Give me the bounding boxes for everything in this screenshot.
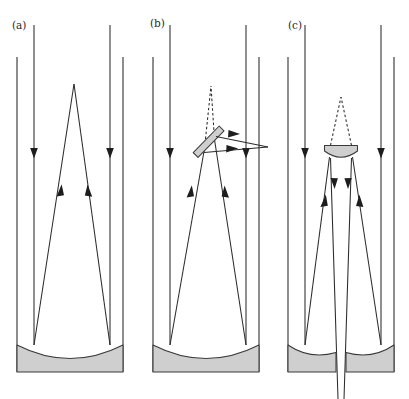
panel-b-label: (b) xyxy=(150,17,165,29)
panel-b-exit-ray-upper xyxy=(216,137,268,148)
panel-c-down-arrow-right-icon xyxy=(377,148,385,159)
panel-c-virtual-ray-right xyxy=(341,97,353,150)
panel-c-down-arrow-left-icon xyxy=(301,148,309,159)
panel-c-label: (c) xyxy=(288,19,302,31)
panel-b-exit-ray-lower xyxy=(204,147,268,153)
panel-a-converging-ray-left xyxy=(34,84,74,345)
panel-b-exit-arrow-upper-icon xyxy=(228,130,240,138)
panel-b-converging-ray-left xyxy=(170,149,205,346)
panel-b-secondary-mirror xyxy=(193,126,224,157)
panel-b-exit-arrow-lower-icon xyxy=(226,145,238,153)
panel-b-up-arrow-left-icon xyxy=(187,185,194,197)
panel-c-converging-ray-left xyxy=(305,157,330,345)
figure-root: (a) (b) xyxy=(0,0,409,399)
panel-a-label: (a) xyxy=(12,19,26,31)
panel-a-converging-ray-right xyxy=(74,84,110,345)
panel-c-secondary-mirror xyxy=(325,146,358,158)
panel-a-primary-mirror xyxy=(17,345,123,372)
panel-b-down-arrow-left-icon xyxy=(166,148,174,159)
panel-c-virtual-ray-left xyxy=(330,97,342,150)
telescope-diagram: (a) (b) xyxy=(0,0,409,399)
panel-b-primary-mirror xyxy=(153,345,259,372)
panel-c: (c) xyxy=(288,19,394,399)
panel-c-converging-ray-right xyxy=(353,157,382,345)
panel-a-down-arrow-left-icon xyxy=(30,148,38,159)
panel-c-up-arrow-right-icon xyxy=(356,195,363,207)
panel-b-converging-ray-right xyxy=(215,140,247,346)
panel-c-primary-mirror-right xyxy=(346,345,394,372)
panel-c-primary-mirror-left xyxy=(288,345,336,372)
panel-b: (b) xyxy=(150,17,268,372)
panel-a: (a) xyxy=(12,19,123,372)
panel-a-down-arrow-right-icon xyxy=(106,148,114,159)
